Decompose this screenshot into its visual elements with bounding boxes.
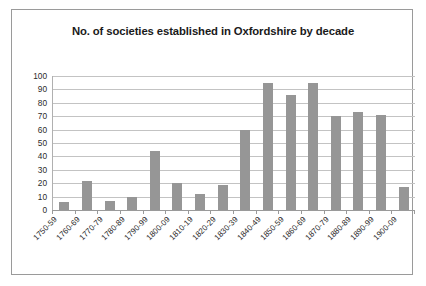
chart-title: No. of societies established in Oxfordsh… (38, 24, 388, 39)
bar[interactable] (59, 202, 69, 210)
bar[interactable] (286, 95, 296, 210)
x-tick-label: 1770-79 (77, 215, 104, 242)
x-tick (165, 211, 166, 214)
x-tick-label: 1860-69 (281, 215, 308, 242)
x-tick (414, 211, 415, 214)
x-tick (97, 211, 98, 214)
bar[interactable] (127, 197, 137, 210)
y-tick-label: 60 (38, 125, 47, 135)
x-tick-label: 1750-59 (32, 215, 59, 242)
bar-slot (302, 76, 325, 210)
bar[interactable] (150, 151, 160, 210)
x-tick-label: 1780-89 (100, 215, 127, 242)
bar[interactable] (399, 187, 409, 210)
x-tick-label: 1820-29 (190, 215, 217, 242)
y-tick-label: 100 (33, 71, 47, 81)
x-tick-label: 1880-89 (326, 215, 353, 242)
bar-slot (189, 76, 212, 210)
bar-slot (392, 76, 415, 210)
x-tick-label: 1900-09 (371, 215, 398, 242)
y-tick-label: 50 (38, 138, 47, 148)
bar-slot (234, 76, 257, 210)
bar-slot (370, 76, 393, 210)
x-tick-label: 1870-79 (303, 215, 330, 242)
bar-series (53, 76, 415, 210)
bar-slot (279, 76, 302, 210)
bar[interactable] (263, 83, 273, 210)
y-tick-label: 0 (42, 205, 47, 215)
x-tick (301, 211, 302, 214)
bar[interactable] (82, 181, 92, 210)
y-tick-label: 70 (38, 111, 47, 121)
x-tick-label: 1890-99 (349, 215, 376, 242)
x-tick (52, 211, 53, 214)
bar-slot (76, 76, 99, 210)
bar[interactable] (308, 83, 318, 210)
x-axis: 1750-591760-691770-791780-891790-991800-… (52, 215, 414, 275)
plot-area (52, 76, 415, 210)
bar[interactable] (105, 201, 115, 210)
y-tick-label: 90 (38, 84, 47, 94)
bar-slot (166, 76, 189, 210)
x-tick-label: 1810-19 (168, 215, 195, 242)
x-tick (120, 211, 121, 214)
bar-slot (347, 76, 370, 210)
y-tick-label: 20 (38, 178, 47, 188)
y-tick-label: 30 (38, 165, 47, 175)
bar-slot (325, 76, 348, 210)
x-tick (324, 211, 325, 214)
bar[interactable] (172, 183, 182, 210)
x-tick-label: 1800-09 (145, 215, 172, 242)
x-tick (256, 211, 257, 214)
bar[interactable] (331, 116, 341, 210)
x-tick-label: 1830-39 (213, 215, 240, 242)
bar-slot (144, 76, 167, 210)
bar[interactable] (376, 115, 386, 210)
bar[interactable] (218, 185, 228, 210)
x-tick (346, 211, 347, 214)
bar[interactable] (240, 130, 250, 210)
bar[interactable] (195, 194, 205, 210)
bar-slot (211, 76, 234, 210)
x-tick (278, 211, 279, 214)
x-tick (143, 211, 144, 214)
x-tick-label: 1850-59 (258, 215, 285, 242)
bar-slot (121, 76, 144, 210)
x-tick (75, 211, 76, 214)
chart-frame: No. of societies established in Oxfordsh… (11, 9, 413, 275)
x-tick (233, 211, 234, 214)
y-tick-label: 10 (38, 192, 47, 202)
bar[interactable] (353, 112, 363, 210)
x-tick-label: 1790-99 (122, 215, 149, 242)
bar-slot (257, 76, 280, 210)
y-tick-label: 80 (38, 98, 47, 108)
x-tick-label: 1760-69 (55, 215, 82, 242)
y-tick-label: 40 (38, 151, 47, 161)
y-axis: 1009080706050403020100 (12, 76, 50, 210)
bar-slot (53, 76, 76, 210)
bar-slot (98, 76, 121, 210)
x-tick-label: 1840-49 (236, 215, 263, 242)
